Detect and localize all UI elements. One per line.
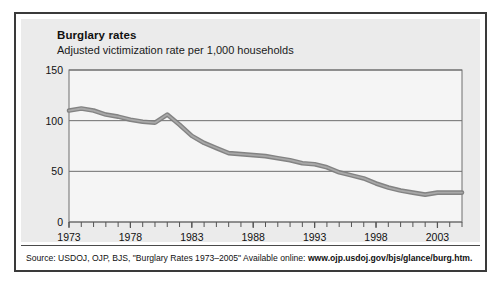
plot-background bbox=[69, 70, 462, 222]
x-tick-label-1983: 1983 bbox=[180, 231, 204, 242]
x-tick-label-1973: 1973 bbox=[57, 231, 81, 242]
source-note: Source: USDOJ, OJP, BJS, "Burglary Rates… bbox=[26, 253, 478, 263]
y-tick-label-150: 150 bbox=[45, 64, 63, 76]
footer-divider bbox=[21, 245, 480, 246]
chart-panel: Burglary rates Adjusted victimization ra… bbox=[21, 19, 480, 242]
source-note-prefix: Source: USDOJ, OJP, BJS, "Burglary Rates… bbox=[26, 253, 308, 263]
line-chart: 0501001501973197819831988199319982003 bbox=[21, 19, 480, 242]
x-tick-label-1998: 1998 bbox=[364, 231, 388, 242]
y-tick-label-0: 0 bbox=[57, 216, 63, 228]
source-url[interactable]: www.ojp.usdoj.gov/bjs/glance/burg.htm. bbox=[308, 253, 472, 263]
x-tick-label-1988: 1988 bbox=[242, 231, 266, 242]
x-tick-label-1993: 1993 bbox=[303, 231, 327, 242]
y-tick-label-100: 100 bbox=[45, 115, 63, 127]
figure-container: Burglary rates Adjusted victimization ra… bbox=[14, 12, 487, 272]
x-tick-label-1978: 1978 bbox=[119, 231, 143, 242]
x-tick-label-2003: 2003 bbox=[426, 231, 450, 242]
y-tick-label-50: 50 bbox=[51, 165, 63, 177]
